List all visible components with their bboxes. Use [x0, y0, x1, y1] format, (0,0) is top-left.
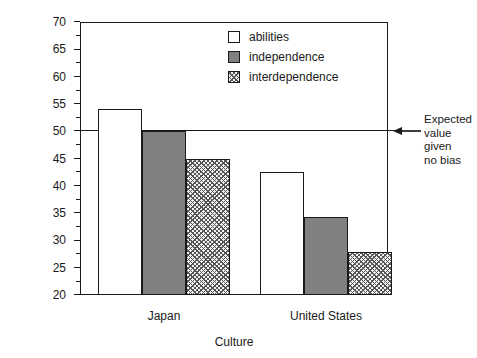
legend-swatch-abilities: [228, 31, 240, 43]
y-tick-label: 50: [38, 125, 66, 137]
y-tick-label: 30: [38, 234, 66, 246]
legend-label-abilities: abilities: [249, 31, 289, 43]
y-tick-label: 40: [38, 180, 66, 192]
y-tick-label: 25: [38, 262, 66, 274]
bar-independence-united-states: [304, 217, 348, 295]
legend-swatch-interdependence: [228, 71, 240, 83]
reference-line-label: Expected value given no bias: [424, 113, 472, 167]
legend-item-independence: independence: [228, 48, 338, 66]
bar-abilities-japan: [98, 109, 142, 295]
legend-item-abilities: abilities: [228, 28, 338, 46]
y-tick-label: 65: [38, 43, 66, 55]
bar-chart: Percent estimate 2025303540455055606570 …: [0, 0, 477, 358]
legend-item-interdependence: interdependence: [228, 68, 338, 86]
x-tick-label-united-states: United States: [290, 309, 362, 323]
y-tick-label: 20: [38, 289, 66, 301]
y-tick-label: 35: [38, 207, 66, 219]
legend: abilitiesindependenceinterdependence: [228, 28, 338, 88]
legend-label-independence: independence: [249, 51, 324, 63]
bar-abilities-united-states: [260, 172, 304, 295]
x-tick-label-japan: Japan: [148, 309, 181, 323]
bar-independence-japan: [142, 131, 186, 295]
bar-interdependence-japan: [186, 159, 230, 296]
bar-interdependence-united-states: [348, 252, 392, 295]
legend-swatch-independence: [228, 51, 240, 63]
y-tick-label: 60: [38, 71, 66, 83]
x-axis-title: Culture: [215, 335, 254, 349]
y-tick-label: 55: [38, 98, 66, 110]
y-tick-label: 70: [38, 16, 66, 28]
legend-label-interdependence: interdependence: [249, 71, 338, 83]
left-arrow-icon: [392, 125, 422, 137]
y-tick-label: 45: [38, 153, 66, 165]
